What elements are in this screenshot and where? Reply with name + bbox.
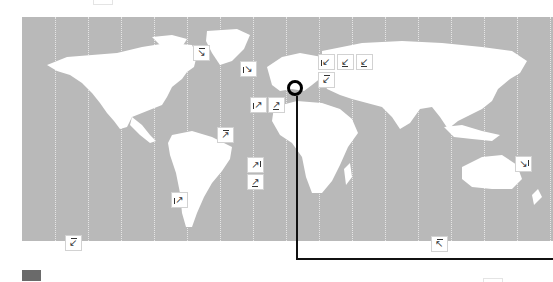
tick-mark-icon <box>321 60 322 66</box>
wind-marker-scandinavia-2[interactable]: ↙ <box>337 54 354 70</box>
wind-marker-south-atlantic-2[interactable]: ↗ <box>247 174 264 190</box>
tick-mark-icon <box>199 48 205 49</box>
tick-mark-icon <box>324 75 330 76</box>
tick-mark-icon <box>252 186 258 187</box>
wind-marker-brazil-north[interactable]: ↗ <box>217 127 234 143</box>
tick-mark-icon <box>223 130 229 131</box>
arrow-up-right-icon: ↗ <box>254 100 262 110</box>
wind-marker-baltic[interactable]: ↙ <box>318 72 335 88</box>
wind-marker-patagonia[interactable]: ↗ <box>171 192 188 208</box>
wind-marker-north-atlantic-east[interactable]: ↗ <box>250 97 267 113</box>
wind-marker-greenland-east[interactable]: ↘ <box>240 61 257 77</box>
wind-marker-pacific-southeast[interactable]: ↙ <box>65 235 82 251</box>
arrow-down-left-icon: ↙ <box>69 238 77 248</box>
arrow-down-left-icon: ↙ <box>322 57 330 67</box>
arrow-up-right-icon: ↗ <box>221 130 229 140</box>
arrow-down-right-icon: ↘ <box>519 159 527 169</box>
land-masses <box>22 17 553 241</box>
continents-shape <box>22 17 553 241</box>
tick-mark-icon <box>71 238 77 239</box>
arrow-down-right-icon: ↘ <box>244 64 252 74</box>
leader-line-vertical <box>296 96 298 259</box>
tick-mark-icon <box>342 66 348 67</box>
arrow-down-left-icon: ↙ <box>322 75 330 85</box>
tick-mark-icon <box>437 239 443 240</box>
tick-mark-icon <box>243 67 244 73</box>
tick-mark-icon <box>273 109 279 110</box>
wind-marker-south-atlantic-1[interactable]: ↗ <box>247 157 264 173</box>
arrow-down-right-icon: ↘ <box>197 48 205 58</box>
tick-mark-icon <box>253 103 254 109</box>
leader-line-horizontal <box>296 258 553 260</box>
tick-mark-icon <box>260 161 261 167</box>
tick-mark-icon <box>174 198 175 204</box>
top-tab[interactable] <box>93 0 113 5</box>
legend-swatch <box>22 270 41 281</box>
arrow-up-right-icon: ↗ <box>251 160 259 170</box>
wind-marker-north-atlantic-greenland-west[interactable]: ↘ <box>193 45 210 61</box>
wind-marker-southern-ocean[interactable]: ↖ <box>431 236 448 252</box>
tick-mark-icon <box>528 160 529 166</box>
world-map[interactable] <box>22 17 553 241</box>
bottom-tab[interactable] <box>483 278 503 282</box>
wind-marker-russia-west[interactable]: ↙ <box>356 54 373 70</box>
wind-marker-iberia[interactable]: ↗ <box>268 97 285 113</box>
wind-marker-melanesia[interactable]: ↘ <box>515 156 532 172</box>
arrow-up-left-icon: ↖ <box>435 239 443 249</box>
arrow-up-right-icon: ↗ <box>175 195 183 205</box>
location-ring-icon[interactable] <box>287 80 303 96</box>
tick-mark-icon <box>361 66 367 67</box>
wind-marker-scandinavia-1[interactable]: ↙ <box>318 54 335 70</box>
